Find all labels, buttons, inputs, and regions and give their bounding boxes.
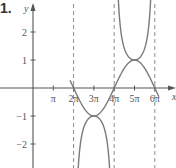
y-tick-label: −2 — [16, 139, 27, 150]
x-tick-label: 2π — [69, 93, 79, 104]
x-tick-label: 4π — [109, 93, 119, 104]
y-axis-arrow-icon — [31, 3, 36, 11]
y-axis-label: y — [23, 3, 29, 14]
cosecant-branch — [118, 0, 150, 60]
x-tick-label: π — [51, 93, 56, 104]
x-axis-label: x — [171, 91, 176, 102]
x-tick-label: 3π — [89, 93, 99, 104]
x-axis-arrow-icon — [168, 86, 176, 91]
x-tick-label: 5π — [129, 93, 139, 104]
y-tick-label: −1 — [16, 111, 27, 122]
x-tick-label: 6π — [150, 93, 160, 104]
graph: π2π3π4π5π6π21−1−2yx — [0, 0, 176, 168]
tick-labels: π2π3π4π5π6π21−1−2yx — [16, 3, 176, 150]
y-tick-label: 1 — [22, 55, 27, 66]
cosecant-branch — [78, 116, 110, 168]
y-tick-label: 2 — [22, 27, 27, 38]
